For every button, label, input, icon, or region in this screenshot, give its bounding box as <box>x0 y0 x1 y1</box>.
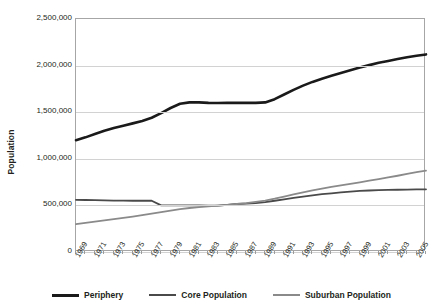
legend-label: Periphery <box>84 290 123 300</box>
legend-swatch <box>52 294 79 297</box>
legend-swatch <box>149 294 176 297</box>
legend-label: Core Population <box>181 290 247 300</box>
y-tick-label: 0 <box>14 247 72 255</box>
gridline <box>76 159 424 160</box>
y-tick-label: 1,500,000 <box>14 107 72 115</box>
chart-legend: PeripheryCore PopulationSuburban Populat… <box>0 286 443 304</box>
gridline <box>76 66 424 67</box>
series-lines <box>76 19 426 252</box>
y-tick-label: 2,000,000 <box>14 61 72 69</box>
series-line-periphery <box>76 54 426 140</box>
gridline <box>76 112 424 113</box>
legend-item: Periphery <box>52 290 123 300</box>
population-line-chart: Population 2,500,0002,000,0001,500,0001,… <box>0 0 443 308</box>
legend-item: Core Population <box>149 290 247 300</box>
x-axis-tick-labels: 1969197119731975197719791981198319851987… <box>75 255 425 287</box>
plot-area <box>75 18 425 251</box>
y-tick-label: 1,000,000 <box>14 154 72 162</box>
series-line-suburban-population <box>76 171 426 224</box>
gridline <box>76 205 424 206</box>
y-tick-label: 500,000 <box>14 200 72 208</box>
legend-label: Suburban Population <box>305 290 391 300</box>
legend-swatch <box>273 294 300 297</box>
legend-item: Suburban Population <box>273 290 391 300</box>
y-tick-label: 2,500,000 <box>14 14 72 22</box>
y-axis-tick-labels: 2,500,0002,000,0001,500,0001,000,000500,… <box>12 0 72 308</box>
